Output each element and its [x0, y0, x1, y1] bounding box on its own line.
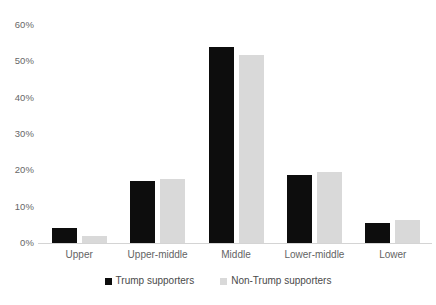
- bar-group: [354, 18, 432, 243]
- y-axis-tick-label: 30%: [0, 129, 34, 139]
- bar[interactable]: [209, 47, 234, 243]
- bar-group: [275, 18, 353, 243]
- legend-item[interactable]: Non-Trump supporters: [220, 275, 331, 287]
- legend-swatch-icon: [220, 278, 227, 285]
- legend-label: Trump supporters: [116, 275, 195, 287]
- y-axis-tick-label: 50%: [0, 56, 34, 66]
- x-axis-line: [38, 243, 432, 244]
- y-axis-tick-label: 20%: [0, 165, 34, 175]
- bar[interactable]: [52, 228, 77, 243]
- y-axis-tick-label: 40%: [0, 93, 34, 103]
- bar[interactable]: [239, 55, 264, 243]
- bar-group: [197, 18, 275, 243]
- bar-group: [40, 18, 118, 243]
- y-axis-tick-label: 10%: [0, 202, 34, 212]
- chart-legend: Trump supportersNon-Trump supporters: [0, 275, 436, 287]
- bar-groups: [40, 18, 432, 243]
- bar[interactable]: [82, 236, 107, 243]
- legend-swatch-icon: [105, 278, 112, 285]
- bar[interactable]: [395, 220, 420, 243]
- bar[interactable]: [365, 223, 390, 243]
- x-axis-tick-label: Lower: [354, 248, 432, 268]
- bar[interactable]: [287, 175, 312, 243]
- y-axis-tick-label: 0%: [0, 238, 34, 248]
- x-axis-tick-label: Middle: [197, 248, 275, 268]
- legend-label: Non-Trump supporters: [231, 275, 331, 287]
- x-axis-tick-label: Upper: [40, 248, 118, 268]
- x-axis-tick-label: Lower-middle: [275, 248, 353, 268]
- legend-item[interactable]: Trump supporters: [105, 275, 195, 287]
- bar[interactable]: [160, 179, 185, 243]
- bar-chart: 60%50%40%30%20%10%0% UpperUpper-middleMi…: [0, 0, 436, 305]
- bar[interactable]: [317, 172, 342, 243]
- bar-group: [118, 18, 196, 243]
- bar[interactable]: [130, 181, 155, 243]
- x-axis-tick-label: Upper-middle: [118, 248, 196, 268]
- y-axis-tick-label: 60%: [0, 20, 34, 30]
- x-axis-labels: UpperUpper-middleMiddleLower-middleLower: [40, 248, 432, 268]
